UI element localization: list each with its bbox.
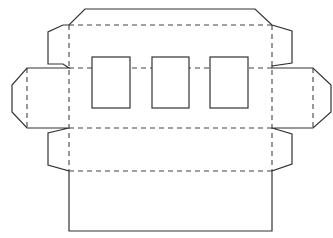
box-dieline-diagram bbox=[0, 0, 333, 238]
window-1 bbox=[92, 57, 130, 108]
window-2 bbox=[152, 57, 189, 108]
window-3 bbox=[210, 57, 248, 108]
cut-outline bbox=[12, 9, 331, 231]
window-cutouts bbox=[92, 57, 248, 108]
